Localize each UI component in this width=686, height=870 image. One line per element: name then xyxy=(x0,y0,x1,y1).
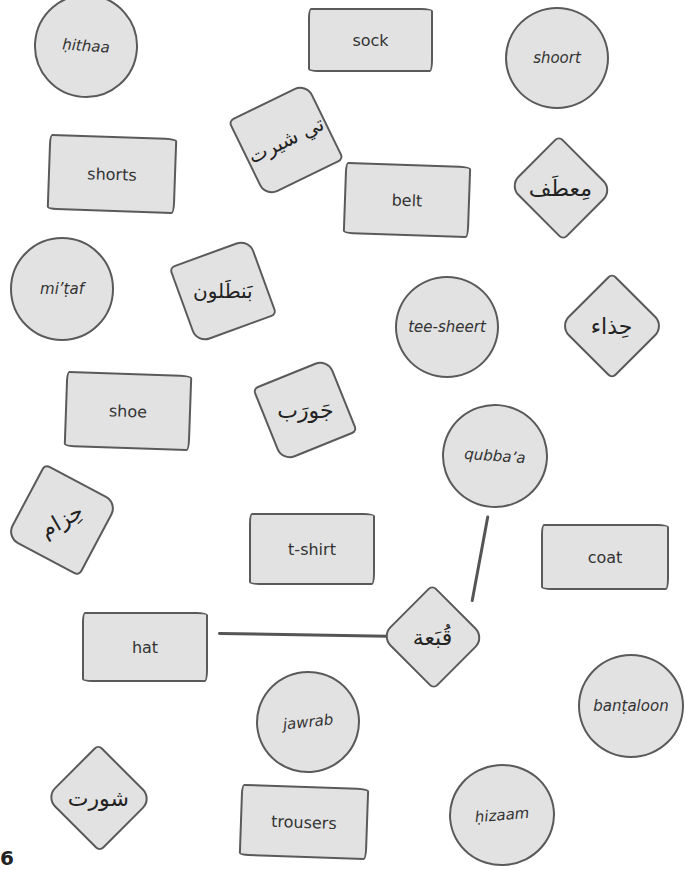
card-label: جَورَب xyxy=(277,398,333,423)
english-card-shorts[interactable]: shorts xyxy=(47,134,178,214)
card-label: ḥizaam xyxy=(474,804,530,827)
english-card-trousers[interactable]: trousers xyxy=(239,784,369,860)
card-label: حِذاء xyxy=(591,313,633,338)
card-label: coat xyxy=(588,548,623,567)
transliteration-card-hithaa[interactable]: ḥithaa xyxy=(30,0,141,102)
card-label: حِزام xyxy=(36,498,88,542)
card-label: بَنطَلون xyxy=(193,279,253,303)
card-label: تي شيرت xyxy=(244,111,328,168)
page-number: 6 xyxy=(0,846,14,870)
card-label: shoort xyxy=(533,49,581,67)
card-label: شورت xyxy=(68,785,129,810)
transliteration-card-bantaloon[interactable]: banṭaloon xyxy=(578,654,684,758)
arabic-card-tshirt[interactable]: تي شيرت xyxy=(228,82,345,198)
card-label: trousers xyxy=(271,811,337,832)
arabic-card-sock[interactable]: جَورَب xyxy=(252,358,358,463)
english-card-sock[interactable]: sock xyxy=(308,8,433,72)
card-label: sock xyxy=(352,31,388,50)
card-label: مِعطَف xyxy=(529,176,592,201)
arabic-card-belt[interactable]: حِزام xyxy=(5,463,119,577)
transliteration-card-jawrab[interactable]: jawrab xyxy=(251,666,365,778)
card-label: ḥithaa xyxy=(62,35,111,56)
card-label: قُبَعة xyxy=(413,624,453,649)
card-label: tee-sheert xyxy=(408,318,486,336)
card-label: qubba’a xyxy=(464,445,526,467)
transliteration-card-qubbaa[interactable]: qubba’a xyxy=(439,400,552,511)
arabic-card-shorts[interactable]: شورت xyxy=(45,744,154,853)
english-card-belt[interactable]: belt xyxy=(343,162,471,238)
transliteration-card-hizaam[interactable]: ḥizaam xyxy=(445,760,559,870)
card-label: shorts xyxy=(87,164,137,185)
english-card-coat[interactable]: coat xyxy=(541,524,669,590)
transliteration-card-tee-sheert[interactable]: tee-sheert xyxy=(395,276,499,378)
arabic-card-trousers[interactable]: بَنطَلون xyxy=(169,238,278,344)
card-label: shoe xyxy=(109,401,148,421)
english-card-shoe[interactable]: shoe xyxy=(64,371,193,451)
card-label: belt xyxy=(391,190,422,210)
card-label: hat xyxy=(132,638,158,657)
english-card-hat[interactable]: hat xyxy=(82,612,208,682)
arabic-card-shoe[interactable]: حِذاء xyxy=(558,272,665,379)
english-card-t-shirt[interactable]: t-shirt xyxy=(249,513,375,585)
transliteration-card-mitaf[interactable]: mi’ṭaf xyxy=(10,237,114,341)
card-label: banṭaloon xyxy=(593,697,668,715)
arabic-card-coat[interactable]: مِعطَف xyxy=(508,135,614,241)
card-label: mi’ṭaf xyxy=(40,280,84,298)
connector-line-qubbaa-to-arabic-hat xyxy=(470,515,489,602)
card-label: t-shirt xyxy=(288,540,336,559)
card-label: jawrab xyxy=(282,710,334,733)
transliteration-card-shoort[interactable]: shoort xyxy=(505,7,609,109)
connector-line-hat-to-arabic-hat xyxy=(218,632,389,638)
